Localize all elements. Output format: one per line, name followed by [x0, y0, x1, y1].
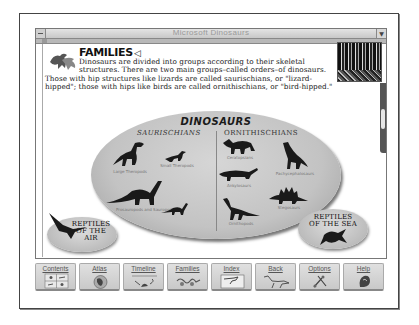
skeleton-thumbnail-image[interactable] [337, 42, 382, 82]
intro-line: hipped"; those with hips like birds are … [43, 83, 343, 91]
atlas-button[interactable]: Atlas [79, 263, 120, 291]
button-label: Timeline [124, 265, 163, 272]
pterosaur-silhouette-icon [49, 213, 89, 243]
ceratopsian-silhouette-icon [223, 137, 257, 155]
group-pachycephalosaurs[interactable]: Pachycephalosaurs [281, 141, 309, 171]
group-ankylosaurs[interactable]: Ankylosaurs [219, 167, 259, 183]
reptiles-of-the-sea-button[interactable]: REPTILES OF THE SEA [298, 209, 368, 249]
ankylosaur-silhouette-icon [219, 167, 259, 183]
reptiles-sea-label: REPTILES OF THE SEA [308, 214, 358, 228]
order-divider [216, 131, 217, 231]
families-button[interactable]: Families [167, 263, 208, 291]
globe-icon [88, 273, 113, 289]
index-card-icon [220, 273, 245, 289]
window-title: Microsoft Dinosaurs [36, 28, 386, 37]
group-label: Large Theropods [111, 169, 149, 174]
index-button[interactable]: Index [211, 263, 252, 291]
large-theropod-silhouette-icon [111, 139, 149, 169]
reptiles-of-the-air-button[interactable]: REPTILES OF THE AIR [47, 217, 117, 252]
app-window: Microsoft Dinosaurs ▼ FAMILIES◁ Dinosaur… [35, 28, 387, 259]
diagram-title: DINOSAURS [91, 116, 341, 127]
options-tools-icon [308, 273, 333, 289]
group-ornithopods[interactable]: Ornithopods [221, 197, 261, 221]
intro-text: Dinosaurs are divided into groups accord… [43, 58, 343, 91]
navigation-toolbar: Contents Atlas Timeline Families Index B… [35, 263, 384, 293]
button-label: Atlas [80, 265, 119, 272]
families-icon [176, 273, 201, 289]
control-box-icon[interactable] [42, 39, 47, 43]
small-sauropod-silhouette-icon [161, 203, 189, 215]
group-label: Prosauropods and Sauropods [116, 207, 162, 212]
help-button[interactable]: Help [343, 263, 384, 291]
button-label: Index [212, 265, 251, 272]
sea-turtle-silhouette-icon [320, 227, 348, 247]
down-arrow-icon[interactable]: ▼ [376, 29, 386, 38]
group-label: Stegosaurs [269, 205, 309, 210]
ornithischians-label[interactable]: ORNITHISCHIANS [224, 129, 298, 137]
sauropod-silhouette-icon [106, 179, 168, 207]
group-large-theropods[interactable]: Large Theropods [111, 139, 149, 169]
title-bar: Microsoft Dinosaurs ▼ [36, 29, 386, 39]
group-label: Ankylosaurs [219, 183, 259, 188]
button-label: Back [256, 265, 295, 272]
group-stegosaurs[interactable]: Stegosaurs [269, 185, 309, 205]
pachycephalosaur-silhouette-icon [281, 141, 309, 171]
group-label: Ornithopods [221, 221, 261, 226]
button-label: Contents [36, 265, 75, 272]
small-theropod-silhouette-icon [164, 149, 190, 163]
group-small-theropods[interactable]: Small Theropods [164, 149, 190, 163]
contents-button[interactable]: Contents [35, 263, 76, 291]
button-label: Help [344, 265, 383, 272]
help-icon [352, 273, 377, 289]
group-small-sauropod [161, 203, 189, 215]
side-graphic [380, 83, 386, 153]
contents-grid-icon [44, 273, 69, 289]
group-label: Ceratopsians [223, 155, 257, 160]
button-label: Families [168, 265, 207, 272]
back-dinosaur-icon [264, 273, 289, 289]
timeline-icon [132, 273, 157, 289]
group-ceratopsians[interactable]: Ceratopsians [223, 137, 257, 155]
group-label: Small Theropods [160, 163, 194, 168]
ornithopod-silhouette-icon [221, 197, 261, 221]
timeline-button[interactable]: Timeline [123, 263, 164, 291]
group-label: Pachycephalosaurs [273, 171, 317, 176]
stegosaur-silhouette-icon [269, 185, 309, 205]
group-prosauropods-sauropods[interactable]: Prosauropods and Sauropods [106, 179, 168, 207]
saurischians-label[interactable]: SAURISCHIANS [137, 129, 201, 137]
button-label: Options [300, 265, 339, 272]
families-page: FAMILIES◁ Dinosaurs are divided into gro… [42, 44, 380, 257]
options-button[interactable]: Options [299, 263, 340, 291]
back-button[interactable]: Back [255, 263, 296, 291]
